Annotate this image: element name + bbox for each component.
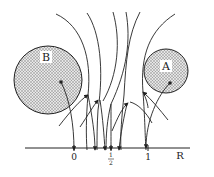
diagram-canvas: B A 0 1 2 [0,0,214,177]
tick-label-0: 0 [71,152,77,162]
tick-label-1: 1 [145,152,151,162]
axis-label-r: R [176,150,184,161]
region-a: A [144,49,188,93]
tick-label-half-num: 1 [109,151,113,158]
region-a-label: A [161,60,171,73]
tick-label-half-den: 2 [109,159,113,166]
axis-r: 0 1 2 1 R [25,145,190,166]
region-b: B [14,46,82,114]
region-b-label: B [42,51,50,64]
